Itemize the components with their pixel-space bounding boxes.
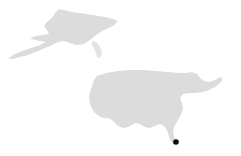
data-point-florida[interactable] <box>173 139 179 145</box>
us-locator-map <box>0 0 241 156</box>
marker-layer <box>173 139 179 145</box>
map-canvas <box>0 0 241 156</box>
